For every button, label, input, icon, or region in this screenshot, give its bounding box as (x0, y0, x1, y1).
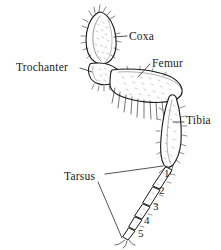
tarsal-segment-number-2: 2 (159, 185, 165, 196)
label-tarsus: Tarsus (64, 171, 95, 183)
tarsal-segment-number-3: 3 (153, 201, 159, 212)
label-coxa: Coxa (129, 31, 154, 43)
tarsal-segment-number-1: 1 (164, 168, 170, 179)
label-tibia: Tibia (186, 115, 211, 127)
label-trochanter: Trochanter (16, 62, 68, 74)
tarsal-segment-number-5: 5 (138, 228, 144, 239)
label-femur: Femur (152, 58, 183, 70)
tarsal-segment-number-4: 4 (144, 215, 150, 226)
